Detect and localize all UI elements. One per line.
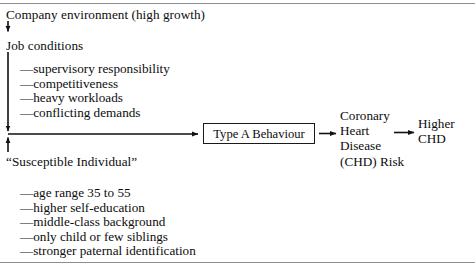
list-item: —heavy workloads — [20, 91, 170, 106]
node-higher-chd: Higher CHD — [418, 116, 455, 146]
job-factors-list: —supervisory responsibility —competitive… — [20, 62, 170, 120]
list-item: —competitiveness — [20, 77, 170, 92]
list-item: —supervisory responsibility — [20, 62, 170, 77]
chd-risk-line: Disease — [340, 138, 404, 153]
top-divider-rule — [0, 3, 475, 4]
node-susceptible-individual: “Susceptible Individual” — [6, 155, 137, 168]
chd-risk-line: Coronary — [340, 108, 404, 123]
diagram-canvas: Company environment (high growth) Job co… — [0, 0, 475, 269]
chd-risk-line: (CHD) Risk — [340, 154, 404, 169]
node-type-a-behaviour-label: Type A Behaviour — [204, 127, 314, 142]
higher-chd-line: Higher — [418, 116, 455, 131]
higher-chd-line: CHD — [418, 131, 455, 146]
person-traits-list: —age range 35 to 55 —higher self-educati… — [20, 186, 196, 259]
list-item: —only child or few siblings — [20, 230, 196, 245]
list-item: —conflicting demands — [20, 106, 170, 121]
bottom-divider-rule — [0, 262, 475, 263]
list-item: —age range 35 to 55 — [20, 186, 196, 201]
list-item: —higher self-education — [20, 201, 196, 216]
chd-risk-line: Heart — [340, 123, 404, 138]
node-type-a-behaviour-box: Type A Behaviour — [203, 123, 315, 144]
list-item: —middle-class background — [20, 215, 196, 230]
node-chd-risk: Coronary Heart Disease (CHD) Risk — [340, 108, 404, 169]
node-job-conditions: Job conditions — [6, 39, 83, 52]
list-item: —stronger paternal identification — [20, 244, 196, 259]
node-company-environment: Company environment (high growth) — [6, 8, 205, 21]
